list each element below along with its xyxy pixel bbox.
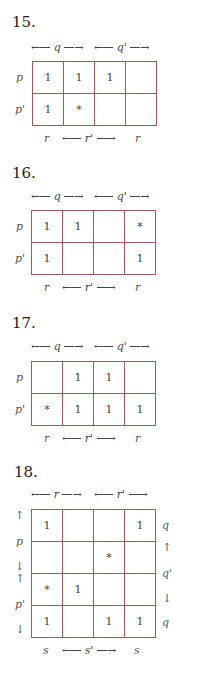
top-label-q: ← q → <box>31 190 83 203</box>
cell: 1 <box>63 394 94 426</box>
row-label-p-prime: p' <box>15 403 25 416</box>
bottom-label-s-prime: ← s' → <box>62 644 116 657</box>
cell: 1 <box>125 510 156 542</box>
bottom-label-r-prime: ← r' → <box>62 281 116 294</box>
left-label-p-prime: ↑ p' ↓ <box>15 572 25 636</box>
cell <box>125 574 156 606</box>
top-label-q-prime: ← q' → <box>94 340 150 353</box>
bottom-label-s-right: s <box>134 644 140 657</box>
cell: 1 <box>63 211 94 243</box>
cell: 1 <box>63 362 94 394</box>
cell: 1 <box>94 606 125 638</box>
cell <box>95 94 126 126</box>
row-label-p: p <box>16 220 23 233</box>
cell <box>63 243 94 275</box>
cell <box>94 243 125 275</box>
row-label-p: p <box>16 71 23 84</box>
cell: 1 <box>33 94 64 126</box>
cell: 1 <box>32 510 63 542</box>
problem-number-16: 16. <box>12 164 36 182</box>
arrow-down-icon: ↓ <box>15 623 24 636</box>
cell: 1 <box>63 574 94 606</box>
top-label-q: ← q → <box>31 41 83 54</box>
bottom-label-r-left: r <box>44 132 49 145</box>
cell: 1 <box>32 211 63 243</box>
cell <box>32 362 63 394</box>
cell: 1 <box>94 394 125 426</box>
top-label-r-prime: ← r' → <box>94 488 148 501</box>
right-label-q-prime: ↑ q' ↓ <box>162 541 172 605</box>
top-label-q-prime: ← q' → <box>94 190 150 203</box>
cell: 1 <box>125 394 156 426</box>
cell: * <box>94 542 125 574</box>
cell: * <box>32 394 63 426</box>
row-label-p-prime: p' <box>15 103 25 116</box>
arrow-up-icon: ↑ <box>162 541 171 554</box>
cell: 1 <box>64 62 95 94</box>
cell <box>63 510 94 542</box>
cell <box>125 362 156 394</box>
cell <box>63 606 94 638</box>
arrow-up-icon: ↑ <box>15 509 24 522</box>
kmap-grid-16: 1 1 * 1 1 <box>31 210 156 275</box>
cell: 1 <box>33 62 64 94</box>
kmap-grid-15: 1 1 1 1 * <box>32 61 157 126</box>
bottom-label-r-left: r <box>44 432 49 445</box>
cell: 1 <box>125 243 156 275</box>
kmap-grid-18: 1 1 * * 1 1 1 1 <box>31 509 156 638</box>
row-label-p-prime: p' <box>15 252 25 265</box>
cell: 1 <box>94 362 125 394</box>
right-label-q-top: q <box>162 519 169 532</box>
cell <box>63 542 94 574</box>
cell <box>94 211 125 243</box>
cell <box>126 62 157 94</box>
top-label-q: ← q → <box>31 340 83 353</box>
cell <box>32 542 63 574</box>
cell <box>126 94 157 126</box>
bottom-label-r-prime: ← r' → <box>62 132 116 145</box>
cell: 1 <box>95 62 126 94</box>
bottom-label-r-prime: ← r' → <box>62 432 116 445</box>
problem-number-17: 17. <box>12 314 36 332</box>
bottom-label-r-left: r <box>44 281 49 294</box>
bottom-label-r-right: r <box>135 132 140 145</box>
arrow-up-icon: ↑ <box>15 572 24 585</box>
cell <box>125 542 156 574</box>
row-label-p: p <box>16 371 23 384</box>
arrow-down-icon: ↓ <box>162 592 171 605</box>
bottom-label-r-right: r <box>135 432 140 445</box>
problem-number-18: 18. <box>14 463 38 481</box>
cell: * <box>64 94 95 126</box>
top-label-r: ← r → <box>31 488 82 501</box>
top-label-q-prime: ← q' → <box>94 41 150 54</box>
left-label-p: ↑ p ↓ <box>15 509 24 573</box>
cell: * <box>32 574 63 606</box>
bottom-label-s-left: s <box>43 644 49 657</box>
cell: * <box>125 211 156 243</box>
bottom-label-r-right: r <box>135 281 140 294</box>
cell: 1 <box>32 606 63 638</box>
cell: 1 <box>32 243 63 275</box>
cell: 1 <box>125 606 156 638</box>
cell <box>94 510 125 542</box>
cell <box>94 574 125 606</box>
problem-number-15: 15. <box>12 13 36 31</box>
right-label-q-bottom: q <box>162 616 169 629</box>
kmap-grid-17: 1 1 * 1 1 1 <box>31 361 156 426</box>
